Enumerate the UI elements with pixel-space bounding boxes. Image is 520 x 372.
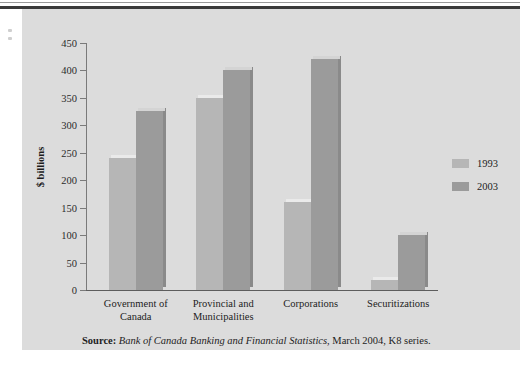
bar-2003-securitizations[interactable] [398, 235, 425, 290]
y-axis-tick-label: 450 [61, 38, 77, 49]
bar-top-facet [373, 277, 400, 280]
bar-side-facet [250, 67, 253, 287]
bar-group [284, 43, 338, 290]
legend-label: 2003 [477, 181, 498, 192]
x-axis-label-line: Securitizations [323, 297, 473, 310]
y-axis-tick [80, 98, 86, 99]
bar-1993-securitizations[interactable] [371, 280, 398, 290]
legend: 1993 2003 [452, 155, 498, 201]
top-hairline-rule [0, 2, 520, 3]
legend-swatch-icon [452, 182, 469, 191]
bar-1993-corporations[interactable] [284, 202, 311, 290]
legend-swatch-icon [452, 159, 469, 168]
bar-2003-corporations[interactable] [311, 59, 338, 290]
y-axis-tick [80, 180, 86, 181]
x-axis-line [86, 290, 438, 291]
bar-top-facet [198, 95, 225, 98]
gutter-mark-icon [8, 37, 12, 40]
y-axis-tick-label: 200 [61, 175, 77, 186]
bar-group [196, 43, 250, 290]
bar-face [371, 280, 398, 290]
bar-face [109, 158, 136, 290]
bar-face [136, 111, 163, 290]
bar-top-facet [138, 108, 165, 111]
bar-1993-provincial-and-municipalities[interactable] [196, 98, 223, 290]
bar-side-facet [163, 108, 166, 287]
bar-top-facet [400, 232, 427, 235]
gutter-mark-icon [8, 29, 12, 32]
y-axis-tick-label: 100 [61, 230, 77, 241]
y-axis-tick-label: 350 [61, 92, 77, 103]
y-axis-tick-label: 0 [72, 285, 77, 296]
legend-label: 1993 [477, 158, 498, 169]
y-axis-tick-label: 250 [61, 147, 77, 158]
bar-top-facet [286, 199, 313, 202]
source-note: Source: Bank of Canada Banking and Finan… [82, 335, 431, 346]
bar-face [223, 70, 250, 290]
legend-item-1993[interactable]: 1993 [452, 155, 498, 172]
y-axis-tick [80, 43, 86, 44]
bar-top-facet [313, 56, 340, 59]
bar-face [311, 59, 338, 290]
figure-container: $ billions 450400350300250200150100500 G… [0, 0, 520, 372]
bar-side-facet [425, 232, 428, 287]
source-suffix: , March 2004, K8 series. [327, 335, 431, 346]
y-axis-line [86, 43, 87, 290]
y-axis-tick-label: 300 [61, 120, 77, 131]
bar-2003-government-of-canada[interactable] [136, 111, 163, 290]
y-axis-tick [80, 235, 86, 236]
bar-group [371, 43, 425, 290]
left-gutter [0, 9, 22, 350]
legend-item-2003[interactable]: 2003 [452, 178, 498, 195]
y-axis-tick [80, 290, 86, 291]
bar-face [398, 235, 425, 290]
bar-side-facet [338, 56, 341, 287]
x-axis-label-line: Municipalities [148, 310, 298, 323]
y-axis-tick [80, 263, 86, 264]
y-axis-title: $ billions [35, 147, 46, 188]
bar-1993-government-of-canada[interactable] [109, 158, 136, 290]
y-axis-tick-label: 150 [61, 202, 77, 213]
y-axis-tick-label: 400 [61, 65, 77, 76]
y-axis-tick [80, 125, 86, 126]
source-publication: Bank of Canada Banking and Financial Sta… [119, 335, 327, 346]
plot-area: $ billions 450400350300250200150100500 G… [86, 43, 436, 290]
source-prefix: Source: [82, 335, 116, 346]
bar-face [284, 202, 311, 290]
bar-face [196, 98, 223, 290]
x-axis-label: Securitizations [323, 297, 473, 310]
bar-group [109, 43, 163, 290]
bar-top-facet [111, 155, 138, 158]
chart-panel: $ billions 450400350300250200150100500 G… [22, 9, 520, 350]
y-axis-tick-label: 50 [67, 257, 78, 268]
bar-top-facet [225, 67, 252, 70]
bar-2003-provincial-and-municipalities[interactable] [223, 70, 250, 290]
y-axis-tick [80, 208, 86, 209]
y-axis-tick [80, 70, 86, 71]
y-axis-tick [80, 153, 86, 154]
